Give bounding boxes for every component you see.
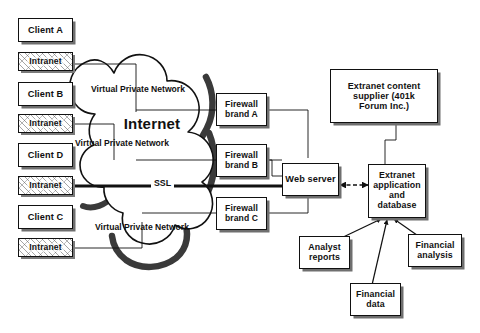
vpn-label-bottom: Virtual Private Network xyxy=(92,222,192,232)
intranet-a-label: Intranet xyxy=(27,57,63,67)
extranet-application-label: Extranet application and database xyxy=(371,171,423,210)
firewall-brand-c-label: Firewall brand C xyxy=(223,204,260,223)
vpn-label-middle-text: Virtual Private Network xyxy=(75,138,169,148)
financial-analysis-label: Financial analysis xyxy=(413,241,456,261)
network-diagram: Client A Intranet Client B Intranet Clie… xyxy=(0,0,480,333)
client-d-label: Client D xyxy=(26,150,66,160)
client-a-box[interactable]: Client A xyxy=(18,18,73,42)
client-b-label: Client B xyxy=(26,89,66,99)
financial-data-box[interactable]: Financial data xyxy=(350,283,401,316)
vpn-label-top-text: Virtual Private Network xyxy=(91,84,185,94)
intranet-c-box[interactable]: Intranet xyxy=(18,238,73,257)
internet-label-text: Internet xyxy=(124,115,181,132)
vpn-label-middle: Virtual Private Network xyxy=(72,138,172,148)
intranet-d-box[interactable]: Intranet xyxy=(18,176,73,195)
intranet-c-label: Intranet xyxy=(27,243,63,253)
extranet-content-supplier-box[interactable]: Extranet content supplier (401k Forum In… xyxy=(330,69,438,123)
intranet-a-box[interactable]: Intranet xyxy=(18,52,73,71)
intranet-b-box[interactable]: Intranet xyxy=(18,114,73,133)
analyst-reports-label: Analyst reports xyxy=(306,243,342,263)
extranet-content-supplier-label: Extranet content supplier (401k Forum In… xyxy=(346,81,423,111)
analyst-reports-box[interactable]: Analyst reports xyxy=(299,236,350,269)
client-d-box[interactable]: Client D xyxy=(18,143,73,167)
client-a-label: Client A xyxy=(26,25,65,35)
client-c-label: Client C xyxy=(26,212,66,222)
client-c-box[interactable]: Client C xyxy=(18,205,73,229)
internet-label: Internet xyxy=(118,115,186,132)
financial-data-label: Financial data xyxy=(354,290,397,310)
firewall-brand-c-box[interactable]: Firewall brand C xyxy=(216,197,267,230)
vpn-label-bottom-text: Virtual Private Network xyxy=(95,222,189,232)
web-server-box[interactable]: Web server xyxy=(282,163,339,196)
intranet-b-label: Intranet xyxy=(27,119,63,129)
intranet-d-label: Intranet xyxy=(27,181,63,191)
web-server-label: Web server xyxy=(283,174,337,184)
client-b-box[interactable]: Client B xyxy=(18,82,73,106)
firewall-brand-b-label: Firewall brand B xyxy=(223,151,260,170)
ssl-label: SSL xyxy=(151,178,174,188)
ssl-label-text: SSL xyxy=(154,178,171,188)
firewall-brand-b-box[interactable]: Firewall brand B xyxy=(216,144,267,177)
firewall-brand-a-label: Firewall brand A xyxy=(223,100,260,119)
extranet-application-box[interactable]: Extranet application and database xyxy=(368,164,426,218)
financial-analysis-box[interactable]: Financial analysis xyxy=(408,234,462,267)
firewall-brand-a-box[interactable]: Firewall brand A xyxy=(216,93,267,126)
vpn-label-top: Virtual Private Network xyxy=(88,84,188,94)
